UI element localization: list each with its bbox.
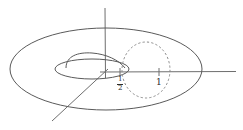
outer-ellipse xyxy=(10,28,202,110)
outer-torus-silhouette xyxy=(10,28,202,110)
coordinate-axes xyxy=(52,8,236,121)
torus-diagram-canvas xyxy=(0,0,243,130)
axis-label-one-half: 1 2 xyxy=(117,76,123,92)
torus-figure: 1 2 1 xyxy=(0,0,243,130)
z-axis-vertical xyxy=(105,8,106,78)
axis-label-one: 1 xyxy=(156,78,162,87)
y-axis-diagonal xyxy=(52,69,108,121)
fraction-denominator: 2 xyxy=(117,85,123,93)
